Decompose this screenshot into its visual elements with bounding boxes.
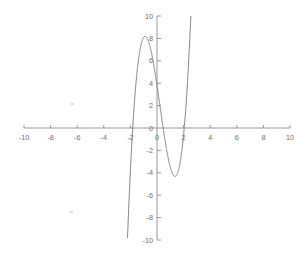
y-tick-label: -10: [143, 236, 153, 245]
x-tick-label: 0: [155, 133, 159, 142]
y-tick-label: -2: [147, 146, 153, 155]
x-tick-label: 10: [286, 133, 294, 142]
scan-speck: [70, 211, 73, 213]
y-tick-label: -6: [147, 191, 153, 200]
y-tick-label: 0: [149, 124, 153, 133]
y-tick-label: 4: [149, 79, 153, 88]
cubic-function-plot: -10-8-6-4-20246810 1086420-2-4-6-8-10: [0, 0, 307, 254]
x-tick-label: 6: [235, 133, 239, 142]
y-tick-label: -4: [147, 168, 153, 177]
scan-speck: [71, 103, 74, 105]
x-tick-label: -6: [74, 133, 80, 142]
x-tick-label: -10: [19, 133, 29, 142]
y-tick-label: 2: [149, 101, 153, 110]
chart-container: -10-8-6-4-20246810 1086420-2-4-6-8-10: [0, 0, 307, 254]
x-tick-label: 4: [208, 133, 212, 142]
x-tick-label: 8: [261, 133, 265, 142]
x-tick-label: -8: [47, 133, 53, 142]
y-tick-label: -8: [147, 213, 153, 222]
y-tick-label: 8: [149, 34, 153, 43]
y-tick-label: 10: [145, 12, 153, 21]
x-tick-label: -4: [101, 133, 107, 142]
plot-background: [0, 0, 307, 254]
